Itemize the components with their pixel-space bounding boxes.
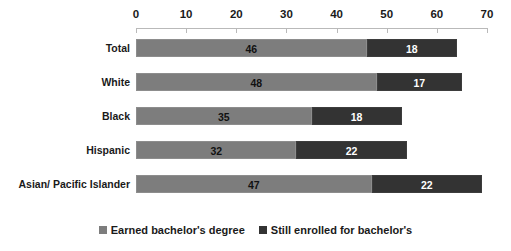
x-tick-label: 40 xyxy=(330,8,343,21)
x-axis-tick xyxy=(186,28,187,33)
x-axis-tick xyxy=(136,28,137,33)
bar-value-enrolled: 18 xyxy=(368,40,456,58)
category-label: Hispanic xyxy=(0,140,130,160)
x-tick-label: 70 xyxy=(481,8,494,21)
bar-value-earned: 47 xyxy=(137,176,371,194)
stacked-bar-chart: 0 10 20 30 40 50 60 70 Total 46 18 xyxy=(0,0,511,251)
bar-track: 48 17 xyxy=(136,73,462,91)
category-label: Total xyxy=(0,38,130,58)
bar-segment-earned[interactable]: 48 xyxy=(136,73,377,91)
x-tick-label: 30 xyxy=(280,8,293,21)
x-tick-label: 10 xyxy=(180,8,193,21)
x-axis-tick xyxy=(236,28,237,33)
bar-value-earned: 46 xyxy=(137,40,366,58)
legend-item-earned[interactable]: Earned bachelor's degree xyxy=(99,224,245,236)
x-axis-tick xyxy=(487,28,488,33)
bar-segment-enrolled[interactable]: 22 xyxy=(372,175,482,193)
x-axis-tick xyxy=(286,28,287,33)
x-axis-line xyxy=(136,28,487,29)
bar-value-enrolled: 17 xyxy=(378,74,461,92)
bar-rows: Total 46 18 White 48 17 Bl xyxy=(0,38,511,208)
x-axis-labels: 0 10 20 30 40 50 60 70 xyxy=(136,8,487,30)
bar-track: 32 22 xyxy=(136,141,407,159)
x-tick-label: 0 xyxy=(133,8,139,21)
x-tick-label: 20 xyxy=(230,8,243,21)
bar-row: Total 46 18 xyxy=(0,38,511,72)
bar-segment-enrolled[interactable]: 17 xyxy=(377,73,462,91)
bar-value-earned: 35 xyxy=(137,108,311,126)
category-label: Black xyxy=(0,106,130,126)
x-axis-tick xyxy=(387,28,388,33)
bar-value-enrolled: 18 xyxy=(313,108,401,126)
bar-value-earned: 32 xyxy=(137,142,295,160)
bar-row: White 48 17 xyxy=(0,72,511,106)
bar-track: 46 18 xyxy=(136,39,457,57)
legend-label: Still enrolled for bachelor's xyxy=(271,224,412,236)
bar-value-earned: 48 xyxy=(137,74,376,92)
bar-segment-earned[interactable]: 46 xyxy=(136,39,367,57)
bar-track: 35 18 xyxy=(136,107,402,125)
bar-segment-earned[interactable]: 35 xyxy=(136,107,312,125)
bar-segment-earned[interactable]: 47 xyxy=(136,175,372,193)
bar-segment-enrolled[interactable]: 22 xyxy=(296,141,406,159)
bar-track: 47 22 xyxy=(136,175,482,193)
x-axis-tick xyxy=(437,28,438,33)
x-tick-label: 50 xyxy=(380,8,393,21)
legend-label: Earned bachelor's degree xyxy=(111,224,245,236)
chart-legend: Earned bachelor's degree Still enrolled … xyxy=(0,224,511,236)
bar-value-enrolled: 22 xyxy=(297,142,405,160)
x-tick-label: 60 xyxy=(430,8,443,21)
bar-row: Asian/ Pacific Islander 47 22 xyxy=(0,174,511,208)
bar-row: Hispanic 32 22 xyxy=(0,140,511,174)
bar-segment-enrolled[interactable]: 18 xyxy=(367,39,457,57)
legend-swatch-icon xyxy=(259,226,267,234)
x-axis-tick xyxy=(337,28,338,33)
legend-item-enrolled[interactable]: Still enrolled for bachelor's xyxy=(259,224,412,236)
bar-segment-earned[interactable]: 32 xyxy=(136,141,296,159)
legend-swatch-icon xyxy=(99,226,107,234)
bar-row: Black 35 18 xyxy=(0,106,511,140)
bar-segment-enrolled[interactable]: 18 xyxy=(312,107,402,125)
category-label: White xyxy=(0,72,130,92)
bar-value-enrolled: 22 xyxy=(373,176,481,194)
category-label: Asian/ Pacific Islander xyxy=(0,174,130,194)
